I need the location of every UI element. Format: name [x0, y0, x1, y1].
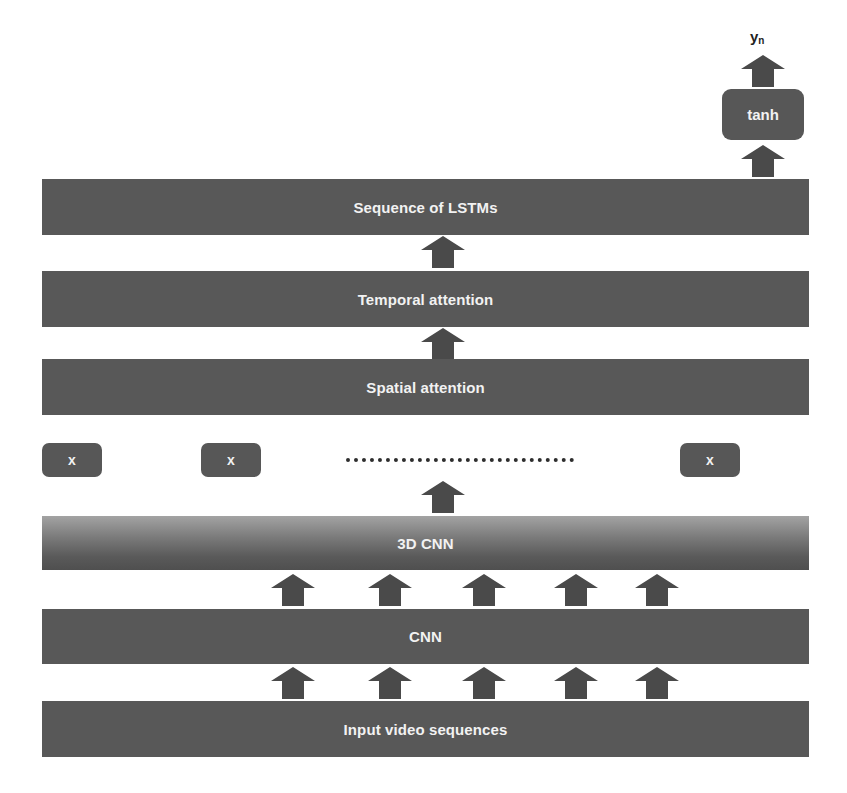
- arrow-up-icon: [635, 667, 679, 699]
- layer-3d-cnn: 3D CNN: [42, 516, 809, 570]
- arrow-up-icon: [271, 667, 315, 699]
- layer-cnn: CNN: [42, 609, 809, 664]
- ellipsis-dotted-line: [346, 458, 574, 462]
- arrow-up-icon: [368, 667, 412, 699]
- arrow-up-icon: [421, 328, 465, 360]
- layer-label: Temporal attention: [358, 291, 494, 308]
- multiplier-label: x: [68, 452, 76, 468]
- tanh-activation-box: tanh: [722, 89, 804, 140]
- layer-spatial-attention: Spatial attention: [42, 359, 809, 415]
- multiplier-box: x: [201, 443, 261, 477]
- layer-input-video-sequences: Input video sequences: [42, 701, 809, 757]
- arrow-up-icon: [271, 574, 315, 606]
- multiplier-label: x: [706, 452, 714, 468]
- arrow-up-icon: [554, 667, 598, 699]
- arrow-up-icon: [368, 574, 412, 606]
- arrow-up-icon: [635, 574, 679, 606]
- multiplier-box: x: [680, 443, 740, 477]
- layer-sequence-of-lstms: Sequence of LSTMs: [42, 179, 809, 235]
- tanh-label: tanh: [747, 106, 779, 123]
- arrow-up-icon: [462, 667, 506, 699]
- arrow-up-icon: [741, 145, 785, 177]
- arrow-up-icon: [554, 574, 598, 606]
- layer-label: Input video sequences: [344, 721, 508, 738]
- layer-label: CNN: [409, 628, 442, 645]
- arrow-up-icon: [462, 574, 506, 606]
- multiplier-box: x: [42, 443, 102, 477]
- layer-label: Sequence of LSTMs: [353, 199, 497, 216]
- arrow-up-icon: [421, 481, 465, 513]
- output-label-subscript: n: [758, 35, 764, 46]
- layer-label: 3D CNN: [397, 535, 453, 552]
- layer-label: Spatial attention: [366, 379, 484, 396]
- arrow-up-icon: [741, 55, 785, 87]
- multiplier-label: x: [227, 452, 235, 468]
- layer-temporal-attention: Temporal attention: [42, 271, 809, 327]
- arrow-up-icon: [421, 236, 465, 268]
- output-label-yn: yn: [750, 28, 764, 46]
